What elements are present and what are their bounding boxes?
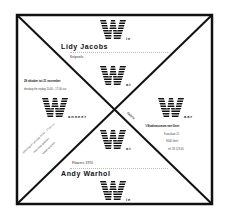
- w-stripe: [158, 111, 184, 113]
- w-stripe: [100, 84, 126, 86]
- w-stripe: [100, 140, 126, 142]
- artist-name-top: Lidy Jacobs: [61, 43, 108, 50]
- address-line: tel. 09 123 45: [168, 148, 184, 151]
- w-stripe: [42, 113, 68, 115]
- big-w-left: [42, 98, 68, 118]
- w-stripe: [100, 38, 126, 40]
- w-stripe: [158, 106, 184, 108]
- striped-w-glyph: [158, 98, 184, 118]
- w-stripe: [100, 143, 126, 145]
- w-stripe: [100, 74, 126, 76]
- w-stripe: [100, 33, 126, 35]
- w-stripe: [158, 101, 184, 103]
- w-stripe: [100, 66, 126, 68]
- w-stripe: [100, 20, 126, 22]
- striped-w-glyph: [100, 130, 126, 150]
- w-stripe: [158, 113, 184, 115]
- suffix-right: aar: [184, 114, 193, 119]
- dates-text: 29 oktober tot 21 november: [24, 79, 61, 83]
- w-stripe: [100, 28, 126, 30]
- suffix-left: anneer: [68, 114, 87, 119]
- suffix-top: ie: [126, 36, 131, 41]
- w-stripe: [100, 69, 126, 71]
- divider-top: [70, 52, 168, 53]
- w-stripe: [100, 181, 126, 183]
- w-stripe: [42, 108, 68, 110]
- suffix-bottom: ie: [126, 197, 131, 202]
- w-stripe: [42, 101, 68, 103]
- w-stripe: [100, 35, 126, 37]
- big-w-top: [100, 20, 126, 40]
- w-stripe: [158, 108, 184, 110]
- hours-text: dinsdag t/m vrijdag 10.00 - 17.00 uur: [24, 88, 66, 91]
- address-line: Kunstlaan 21: [164, 133, 179, 136]
- big-w-right: [158, 98, 184, 118]
- w-stripe: [100, 79, 126, 81]
- address-line: 9000 Gent: [166, 140, 178, 143]
- w-stripe: [100, 145, 126, 147]
- w-stripe: [100, 135, 126, 137]
- venue-name: 't Stadsmuseum van Gent: [145, 124, 179, 128]
- w-stripe: [100, 130, 126, 132]
- w-stripe: [100, 189, 126, 191]
- subtitle-lower: Flowers 1970: [72, 161, 93, 165]
- w-stripe: [100, 76, 126, 78]
- w-stripe: [100, 138, 126, 140]
- subtitle-top: Knipsels: [70, 55, 83, 59]
- w-stripe: [100, 148, 126, 150]
- w-stripe: [100, 25, 126, 27]
- suffix-upper: at: [126, 82, 132, 87]
- big-w-bottom: [100, 181, 126, 201]
- striped-w-glyph: [100, 66, 126, 86]
- w-stripe: [100, 199, 126, 201]
- striped-w-glyph: [42, 98, 68, 118]
- w-stripe: [158, 103, 184, 105]
- w-stripe: [100, 133, 126, 135]
- w-stripe: [100, 30, 126, 32]
- w-stripe: [42, 103, 68, 105]
- w-stripe: [100, 71, 126, 73]
- suffix-lower: at: [126, 146, 132, 151]
- striped-w-glyph: [100, 20, 126, 40]
- w-stripe: [158, 116, 184, 118]
- w-stripe: [100, 184, 126, 186]
- artist-name-bottom: Andy Warhol: [61, 170, 111, 177]
- w-stripe: [42, 116, 68, 118]
- big-w-upper: [100, 66, 126, 86]
- w-stripe: [100, 194, 126, 196]
- w-stripe: [42, 106, 68, 108]
- divider-bottom: [70, 168, 168, 169]
- w-stripe: [100, 196, 126, 198]
- w-stripe: [100, 186, 126, 188]
- w-stripe: [158, 98, 184, 100]
- w-stripe: [100, 23, 126, 25]
- w-stripe: [42, 98, 68, 100]
- poster: ie Lidy Jacobs Knipsels at 29 oktober to…: [0, 0, 225, 222]
- w-stripe: [42, 111, 68, 113]
- w-stripe: [100, 191, 126, 193]
- w-stripe: [100, 81, 126, 83]
- striped-w-glyph: [100, 181, 126, 201]
- big-w-lower: [100, 130, 126, 150]
